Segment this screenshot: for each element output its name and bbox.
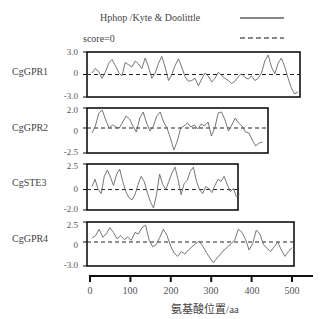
hydropathy-profile-cggpr4: [92, 225, 292, 263]
xtick-500: 500: [277, 285, 307, 296]
panel-label-cgste3: CgSTE3: [12, 177, 46, 188]
ytick-gpr2-zero: 0: [48, 126, 78, 136]
ytick-ste3-zero: 0: [48, 184, 78, 194]
ytick-gpr1-min: -3.0: [48, 91, 78, 101]
xtick-100: 100: [115, 285, 145, 296]
ytick-ste3-max: 2.5: [48, 161, 78, 171]
panel-label-cggpr4: CgGPR4: [12, 233, 48, 244]
ytick-gpr1-zero: 0: [48, 68, 78, 78]
ytick-gpr2-min: -2.5: [48, 147, 78, 157]
ytick-gpr4-zero: 0: [48, 240, 78, 250]
x-axis-label: 氨基酸位置/aa: [105, 300, 305, 316]
xtick-400: 400: [237, 285, 267, 296]
ytick-gpr1-max: 3.0: [48, 47, 78, 57]
panel-box-cggpr2: [87, 108, 268, 153]
ytick-gpr4-min: -3.0: [48, 260, 78, 270]
hydropathy-profile-cgste3: [92, 167, 240, 208]
panel-label-cggpr1: CgGPR1: [12, 66, 48, 77]
panel-box-cgste3: [87, 164, 238, 210]
panel-label-cggpr2: CgGPR2: [12, 122, 48, 133]
xtick-0: 0: [75, 285, 105, 296]
ytick-gpr4-max: 2.5: [48, 220, 78, 230]
ytick-ste3-min: -2.0: [48, 204, 78, 214]
hydropathy-profile-cggpr2: [92, 110, 263, 150]
ytick-gpr2-max: 2.0: [48, 105, 78, 115]
xtick-200: 200: [156, 285, 186, 296]
xtick-300: 300: [196, 285, 226, 296]
